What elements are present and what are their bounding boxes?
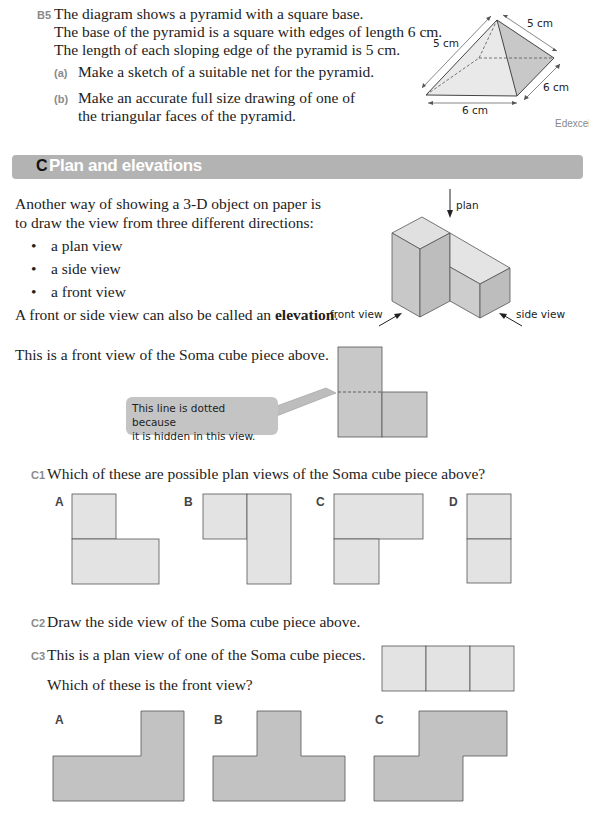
- c3-front-options: [0, 0, 589, 835]
- c3-option-a-shape: [53, 711, 184, 801]
- c3-option-b-shape: [213, 711, 345, 801]
- c3-option-c-shape: [374, 711, 507, 801]
